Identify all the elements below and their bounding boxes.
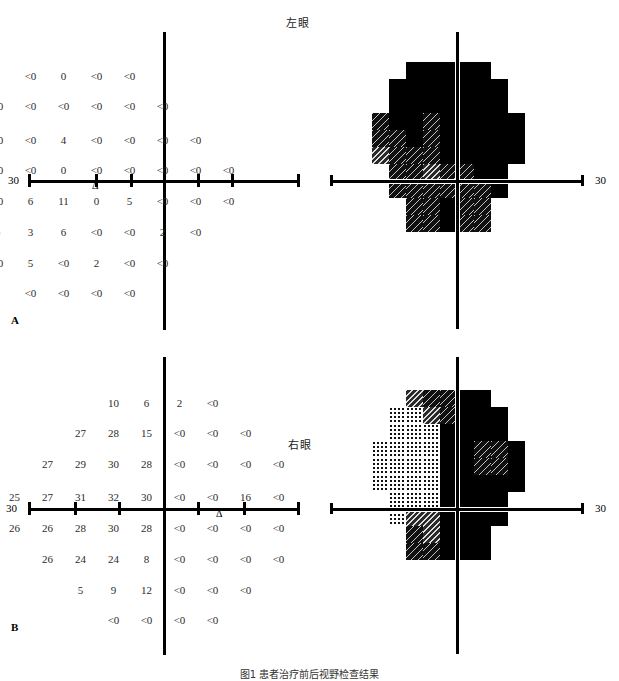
map-row [372,198,552,215]
value-cell: <0 [163,457,196,471]
value-cell: <0 [0,194,14,208]
map-row [372,147,552,164]
map-cell [423,475,440,492]
value-row: 5 9 12 <0 <0 <0 [64,583,262,597]
value-row: <0 <0 <0 <0 [97,613,229,627]
map-row [372,130,552,147]
map-cell [508,147,525,164]
map-axis-label-right: 30 [595,502,606,514]
value-cell: 10 [97,396,130,410]
value-row: 12 6 3 6 <0 <0 2 <0 [0,225,212,239]
map-cell [474,96,491,113]
map-cell [474,424,491,441]
grayscale-map-b [372,390,552,570]
value-cell: 5 [14,256,47,270]
map-cell [474,215,491,232]
value-cell: 30 [97,521,130,535]
map-cell [389,215,406,232]
value-cell: <0 [0,133,14,147]
value-cell: <0 [146,99,179,113]
value-cell: <0 [113,69,146,83]
value-cell: <0 [163,490,196,504]
map-cell [491,424,508,441]
value-cell: 30 [97,457,130,471]
map-cell [406,390,423,407]
map-cell [474,441,491,458]
value-row: <0 <0 <0 <0 [14,286,146,300]
value-cell: <0 [80,286,113,300]
value-cell: 26 [0,521,31,535]
value-cell: <0 [196,613,229,627]
value-cell: <0 [97,613,130,627]
map-axis-tick [581,503,584,514]
map-cell [508,79,525,96]
value-cell: <0 [196,583,229,597]
map-cell [406,130,423,147]
value-cell: <0 [80,163,113,177]
map-cell [406,79,423,96]
map-cell [372,147,389,164]
panel-b: 右眼 B 30 Δ 10 6 2 <0 27 28 15 <0 <0 [0,340,619,660]
value-cell: <0 [163,521,196,535]
value-cell: <0 [14,163,47,177]
map-cell [372,113,389,130]
map-cell [406,458,423,475]
map-cell [491,79,508,96]
axis-tick [163,32,166,39]
value-cell: <0 [229,426,262,440]
value-cell: <0 [229,552,262,566]
value-cell: 26 [31,552,64,566]
map-cell [474,458,491,475]
value-cell: <0 [163,426,196,440]
map-cell [423,198,440,215]
value-cell: <0 [80,225,113,239]
map-cell [508,441,525,458]
value-cell: 32 [97,490,130,504]
map-cell [406,96,423,113]
axis-tick [163,82,166,89]
map-cell [372,130,389,147]
value-cell: 16 [229,490,262,504]
value-cell: <0 [0,256,14,270]
map-cell [474,147,491,164]
value-cell: <0 [80,133,113,147]
map-cell [372,543,389,560]
map-row [372,407,552,424]
map-cell [491,113,508,130]
map-cell [423,390,440,407]
map-axis-tick [330,503,333,514]
map-cell [508,526,525,543]
map-axis-vertical [456,357,459,654]
value-cell: <0 [163,552,196,566]
map-cell [423,96,440,113]
value-cell: <0 [196,426,229,440]
map-row [372,96,552,113]
map-row [372,390,552,407]
value-cell: 25 [0,490,31,504]
map-row [372,543,552,560]
map-cell [423,424,440,441]
map-cell [508,475,525,492]
map-cell [423,130,440,147]
value-cell: <0 [179,163,212,177]
map-cell [508,458,525,475]
map-cell [491,390,508,407]
value-cell: <0 [229,583,262,597]
map-cell [406,215,423,232]
value-cell: <0 [262,521,295,535]
map-cell [406,147,423,164]
value-cell: <0 [113,99,146,113]
value-cell: 2 [80,256,113,270]
map-cell [491,543,508,560]
value-cell: <0 [14,99,47,113]
map-cell [491,147,508,164]
map-axis-label-right: 30 [595,174,606,186]
value-cell: 6 [0,225,14,239]
value-row: <0 5 <0 2 <0 <0 [0,256,179,270]
value-cell: <0 [130,613,163,627]
map-axis-tick [456,647,459,654]
map-cell [389,543,406,560]
value-cell: <0 [179,133,212,147]
map-cell [406,407,423,424]
map-cell [508,113,525,130]
